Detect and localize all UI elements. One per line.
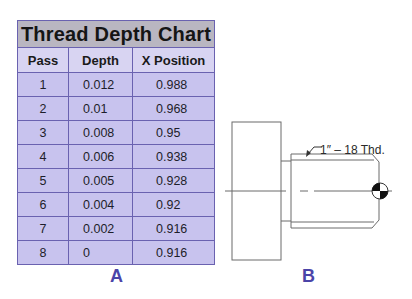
center-of-gravity-icon <box>372 183 388 199</box>
thread-callout: 1″ – 18 Thd. <box>320 143 385 157</box>
figure-label-b: B <box>302 266 315 287</box>
